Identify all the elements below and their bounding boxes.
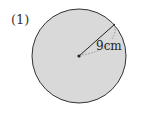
radius-label: 9cm (96, 39, 122, 53)
center-point (77, 54, 80, 57)
circle-figure: 9cm (0, 0, 143, 114)
